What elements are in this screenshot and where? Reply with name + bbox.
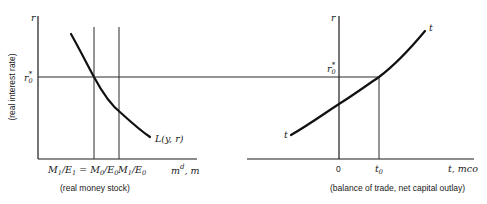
left-panel-money-market: r (real interest rate) r0* L(y, r) M1/E1… [7, 12, 200, 193]
x-tick-m1-e0: M1/E0 [117, 164, 146, 177]
trade-curve-label-bottom: t [284, 129, 288, 140]
right-y-axis-label: r [331, 12, 337, 23]
x-tick-t0: t0 [375, 163, 383, 176]
left-x-axis-caption: (real money stock) [60, 183, 130, 193]
x-tick-zero: 0 [336, 164, 341, 174]
money-demand-curve [71, 34, 150, 137]
money-demand-curve-label: L(y, r) [154, 133, 184, 144]
two-panel-economics-diagram: r (real interest rate) r0* L(y, r) M1/E1… [0, 0, 487, 204]
right-r-star-label: r0* [327, 61, 336, 76]
left-r-star-label: r0* [24, 70, 33, 85]
right-x-axis-caption: (balance of trade, net capital outlay) [330, 183, 465, 193]
left-y-axis-caption: (real interest rate) [7, 53, 17, 120]
x-tick-m1-e1-eq-m0-e0: M1/E1 = M0/E0 [47, 164, 118, 177]
right-panel-trade-balance: r r0* t t 0 t0 t, mco (balance of trade,… [247, 12, 478, 193]
left-x-axis-label: md, m [171, 163, 200, 176]
right-x-axis-label: t, mco [448, 163, 478, 174]
trade-curve-label-top: t [429, 22, 433, 33]
trade-balance-curve [291, 31, 425, 135]
left-y-axis-label: r [31, 12, 37, 23]
